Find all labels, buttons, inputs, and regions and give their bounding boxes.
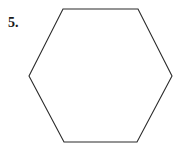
hexagon-outline-shape [29,9,172,142]
hexagon-figure [0,0,187,150]
worksheet-figure-container: 5. [0,0,187,150]
